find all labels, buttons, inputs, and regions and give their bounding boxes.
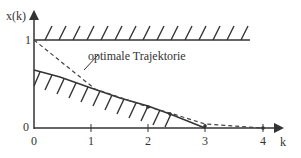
x-tick-3: 3 xyxy=(202,134,208,148)
trajectory-points xyxy=(146,105,265,130)
x-tick-2: 2 xyxy=(145,134,151,148)
trajectory-annotation: optimale Trajektorie xyxy=(88,49,186,63)
x-axis-label: k xyxy=(280,135,286,149)
x-tick-1: 1 xyxy=(88,134,94,148)
y-axis-label: x(k) xyxy=(6,9,26,23)
trajectory-diagram: x(k) k 1 0 0 1 2 3 4 xyxy=(0,0,301,158)
x-tick-4: 4 xyxy=(260,134,266,148)
y-tick-0: 0 xyxy=(23,120,29,134)
y-tick-1: 1 xyxy=(25,33,31,47)
lower-constraint xyxy=(34,70,205,128)
x-tick-0: 0 xyxy=(31,134,37,148)
upper-constraint xyxy=(34,26,250,40)
